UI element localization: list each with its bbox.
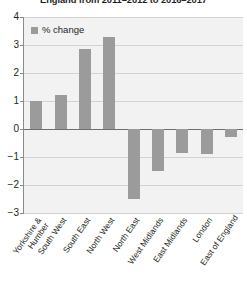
y-axis-tick-mark bbox=[20, 101, 24, 102]
legend-label: % change bbox=[42, 25, 84, 35]
y-axis-tick-label: −2 bbox=[0, 180, 19, 190]
bar bbox=[103, 37, 115, 129]
y-axis-tick-label: 3 bbox=[0, 40, 19, 50]
bar bbox=[79, 49, 91, 129]
y-axis-tick-mark bbox=[20, 129, 24, 130]
y-axis-tick-mark bbox=[20, 73, 24, 74]
gridline bbox=[24, 45, 243, 46]
gridline bbox=[24, 17, 243, 18]
chart-title: England from 2011–2012 to 2016–2017 bbox=[0, 0, 247, 5]
bar bbox=[176, 129, 188, 153]
legend-swatch-icon bbox=[31, 27, 38, 34]
y-axis-tick-label: 4 bbox=[0, 12, 19, 22]
y-axis-tick-mark bbox=[20, 17, 24, 18]
y-axis-tick-label: 2 bbox=[0, 68, 19, 78]
bar bbox=[152, 129, 164, 171]
y-axis-tick-label: 0 bbox=[0, 124, 19, 134]
bar-chart: England from 2011–2012 to 2016–2017 4321… bbox=[0, 0, 247, 283]
bar bbox=[225, 129, 237, 137]
bar bbox=[201, 129, 213, 154]
y-axis-tick-label: −1 bbox=[0, 152, 19, 162]
y-axis-tick-label: 1 bbox=[0, 96, 19, 106]
x-axis-labels: Yorkshire & HumberSouth WestSouth EastNo… bbox=[24, 214, 243, 283]
gridline bbox=[24, 73, 243, 74]
y-axis-tick-mark bbox=[20, 45, 24, 46]
bar bbox=[55, 95, 67, 129]
chart-legend: % change bbox=[31, 25, 84, 35]
bar bbox=[30, 101, 42, 129]
bar bbox=[128, 129, 140, 199]
y-axis-tick-mark bbox=[20, 157, 24, 158]
y-axis-tick-label: −3 bbox=[0, 208, 19, 218]
plot-area bbox=[24, 17, 243, 213]
y-axis-tick-mark bbox=[20, 185, 24, 186]
